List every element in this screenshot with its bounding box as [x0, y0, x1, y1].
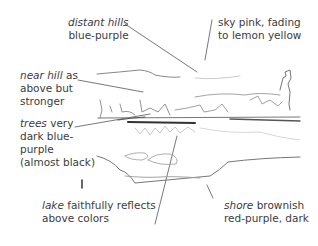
- desc-trees-line4: (almost black): [20, 156, 95, 169]
- desc-sky-line2: to lemon yellow: [218, 29, 301, 42]
- desc-trees-line3: purple: [20, 143, 95, 156]
- desc-near-hill-line3: stronger: [20, 95, 78, 108]
- desc-near-hill-line2: above but: [20, 82, 78, 95]
- desc-trees-line1: very: [47, 117, 74, 129]
- label-trees: trees very dark blue- purple (almost bla…: [20, 117, 95, 169]
- desc-trees-line2: dark blue-: [20, 130, 95, 143]
- label-shore: shore brownish red-purple, dark: [224, 199, 309, 225]
- desc-lake-line1: faithfully reflects: [64, 199, 156, 211]
- desc-shore-line1: brownish: [253, 199, 304, 211]
- desc-lake-line2: above colors: [42, 212, 156, 225]
- desc-near-hill-line1: as: [63, 69, 78, 81]
- label-lake: lake faithfully reflects above colors: [42, 199, 156, 225]
- term-distant-hills: distant hills: [68, 16, 129, 28]
- desc-sky-line1: sky pink, fading: [218, 16, 301, 29]
- label-distant-hills: distant hills blue-purple: [68, 16, 129, 42]
- label-near-hill: near hill as above but stronger: [20, 69, 78, 108]
- label-sky: sky pink, fading to lemon yellow: [218, 16, 301, 42]
- desc-shore-line2: red-purple, dark: [224, 212, 309, 225]
- term-shore: shore: [224, 199, 253, 211]
- term-trees: trees: [20, 117, 47, 129]
- term-lake: lake: [42, 199, 64, 211]
- term-near-hill: near hill: [20, 69, 63, 81]
- desc-distant-hills: blue-purple: [68, 29, 129, 42]
